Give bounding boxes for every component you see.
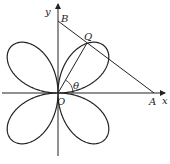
x-axis-label: x — [162, 95, 168, 106]
origin-label: O — [57, 96, 65, 107]
rose-curve-diagram: y x B Q O A θ — [0, 0, 170, 164]
point-a-label: A — [148, 96, 156, 107]
y-axis-label: y — [44, 6, 51, 17]
angle-theta-label: θ — [73, 80, 79, 91]
point-b-label: B — [60, 13, 68, 24]
point-q-label: Q — [84, 31, 92, 42]
